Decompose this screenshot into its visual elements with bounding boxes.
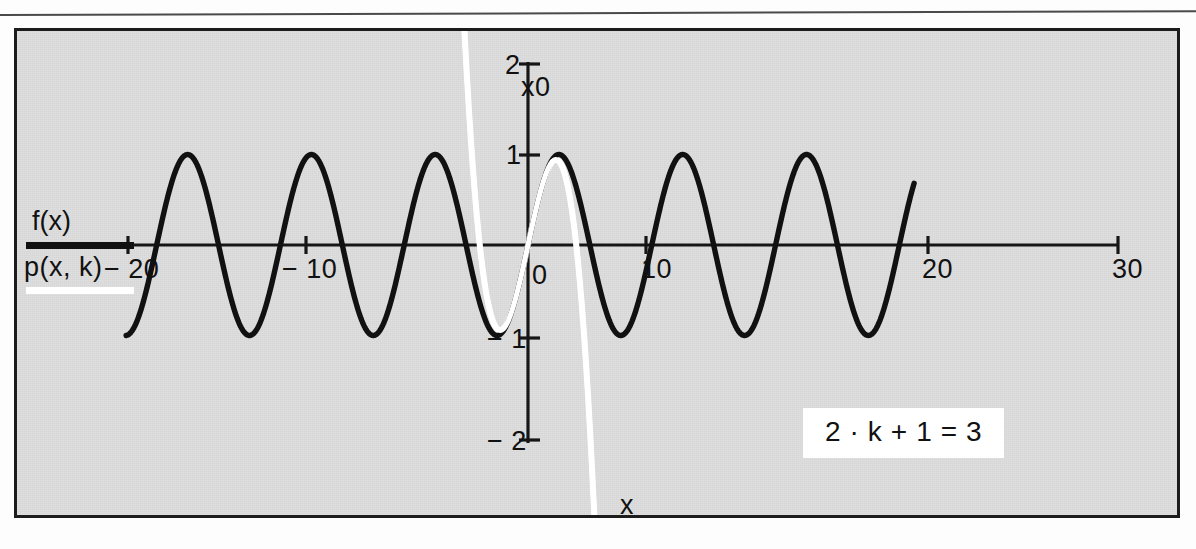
y-tick-label-2: 2 bbox=[505, 52, 521, 79]
origin-label: 0 bbox=[532, 262, 548, 289]
figure-page: − 20 − 10 10 20 30 2 1 − 1 − 2 0 x0 x f(… bbox=[0, 0, 1196, 549]
y-tick-label--1: − 1 bbox=[487, 326, 527, 353]
x-tick-label-20: 20 bbox=[922, 256, 953, 283]
y-tick-label-1: 1 bbox=[506, 142, 522, 169]
equation-annotation: 2 · k + 1 = 3 bbox=[803, 408, 1004, 458]
x-axis-label: x bbox=[620, 492, 634, 519]
x-tick-label-30: 30 bbox=[1112, 256, 1143, 283]
y-tick-label--2: − 2 bbox=[487, 428, 527, 455]
legend-swatch-f-x bbox=[26, 242, 134, 249]
x-tick-label-10: 10 bbox=[641, 256, 672, 283]
legend-label-p-x-k: p(x, k) bbox=[24, 252, 144, 283]
x-tick-label--10: − 10 bbox=[282, 256, 337, 283]
legend: f(x) p(x, k) bbox=[24, 206, 144, 294]
legend-swatch-p-x-k bbox=[26, 287, 134, 294]
plot-canvas bbox=[0, 0, 1196, 549]
legend-label-f-x: f(x) bbox=[24, 206, 144, 237]
y-axis-top-annotation: x0 bbox=[521, 74, 551, 101]
